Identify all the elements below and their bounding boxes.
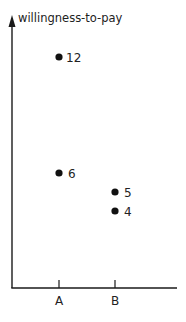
data-point: 5 bbox=[111, 186, 131, 200]
data-label: 12 bbox=[66, 51, 81, 65]
y-axis-arrow-icon bbox=[9, 15, 16, 27]
data-point: 4 bbox=[111, 205, 131, 219]
x-tick-label-a: A bbox=[55, 294, 64, 308]
x-tick-label-b: B bbox=[111, 294, 119, 308]
data-point: 6 bbox=[55, 167, 75, 181]
data-point: 12 bbox=[55, 51, 81, 65]
y-axis-label: willingness-to-pay bbox=[18, 11, 123, 25]
data-label: 4 bbox=[124, 205, 132, 219]
chart-canvas: willingness-to-pay A B 12 6 5 4 bbox=[0, 0, 186, 322]
data-label: 6 bbox=[68, 167, 76, 181]
data-label: 5 bbox=[124, 186, 132, 200]
